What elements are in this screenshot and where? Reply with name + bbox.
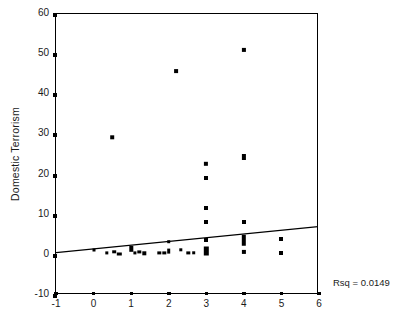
data-point [279,251,283,255]
x-tick-label: 5 [279,299,285,309]
y-tick-label: 10 [38,209,49,219]
data-point [112,250,116,253]
y-tick-label: -10 [35,289,49,299]
y-tick-label: 20 [38,169,49,179]
data-point [167,249,171,254]
y-tick-label: 30 [38,128,49,138]
data-point [179,248,182,251]
y-tick-label: 60 [38,8,49,18]
data-point [204,246,208,255]
data-point [138,251,141,254]
data-point [242,154,246,160]
data-point [242,48,246,52]
data-point [105,251,108,254]
y-tick-label: 40 [38,88,49,98]
data-point [187,251,190,254]
data-point [143,252,146,255]
data-point [204,220,208,224]
plot-right-border [317,13,318,294]
plot-top-border [55,13,318,14]
rsq-annotation: Rsq = 0.0149 [333,277,390,288]
data-point [92,248,95,251]
data-point [111,136,115,139]
data-point [242,235,246,246]
data-point [204,238,208,242]
x-tick-label: 1 [128,299,134,309]
data-point [163,251,166,254]
y-axis-title-label: Domestic Terrorism [9,107,21,201]
y-tick-label: 0 [43,249,49,259]
data-point [192,251,196,254]
x-tick-label: 6 [316,299,322,309]
data-point [167,240,171,244]
data-point [158,251,161,254]
x-tick-label: 0 [91,299,97,309]
data-point [174,69,178,73]
data-point [204,206,208,210]
data-point [279,237,283,241]
x-tick-label: -1 [52,299,61,309]
scatter-plot-figure: Domestic Terrorism -100102030405060 -101… [0,0,414,327]
data-point [204,176,208,180]
data-point [117,252,121,255]
x-tick-label: 3 [204,299,210,309]
x-tick-label: 2 [166,299,172,309]
y-axis-title: Domestic Terrorism [8,13,22,294]
data-point [242,250,246,254]
data-point [242,220,246,224]
data-points-layer [56,13,318,293]
data-point [133,251,136,254]
data-point [204,162,208,166]
plot-area: -100102030405060 -10123456 [55,13,318,294]
x-tick-label: 4 [241,299,247,309]
y-tick-label: 50 [38,48,49,58]
